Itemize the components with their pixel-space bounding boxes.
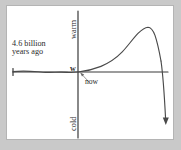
- y-axis-bottom-label-cold: cold: [69, 117, 78, 131]
- sketch-page: 4.6 billion years ago w now warm cold: [0, 0, 181, 150]
- y-axis-top-label-warm: warm: [69, 20, 78, 39]
- chart-card: 4.6 billion years ago w now warm cold: [6, 5, 174, 140]
- curve-end-arrowhead-icon: [163, 118, 169, 126]
- temperature-curve-plunge: [161, 61, 166, 119]
- now-annotation: now: [85, 78, 98, 86]
- origin-time-annotation: 4.6 billion years ago: [12, 40, 46, 57]
- temperature-sketch-chart: [7, 6, 174, 140]
- origin-marker-label: w: [70, 65, 76, 73]
